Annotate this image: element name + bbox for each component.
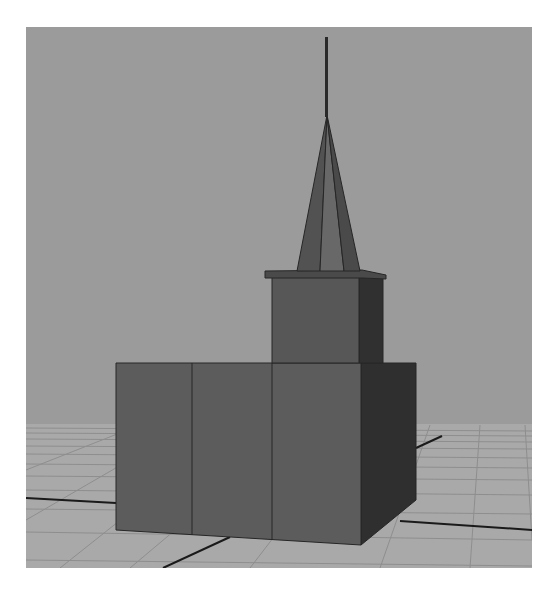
finial-pole[interactable]	[325, 37, 328, 117]
main-block[interactable]	[116, 363, 416, 545]
bell-tower[interactable]	[272, 276, 383, 363]
tower-front-face	[272, 276, 359, 363]
3d-viewport[interactable]: 3D perspective viewport	[26, 27, 532, 568]
tower-side-face	[359, 276, 383, 363]
scene-canvas[interactable]	[26, 27, 532, 568]
main-block-front-face	[116, 363, 361, 545]
